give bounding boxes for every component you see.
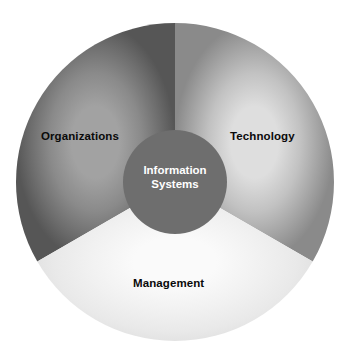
segment-label-management: Management [133, 278, 204, 290]
core-circle-label: Information Systems [123, 164, 227, 191]
core-label-line-1: Information [123, 164, 227, 178]
information-systems-venn-diagram: Organizations Technology Management Info… [0, 0, 350, 358]
segment-label-organizations: Organizations [41, 131, 119, 143]
core-label-line-2: Systems [123, 178, 227, 192]
segment-label-technology: Technology [230, 131, 295, 143]
